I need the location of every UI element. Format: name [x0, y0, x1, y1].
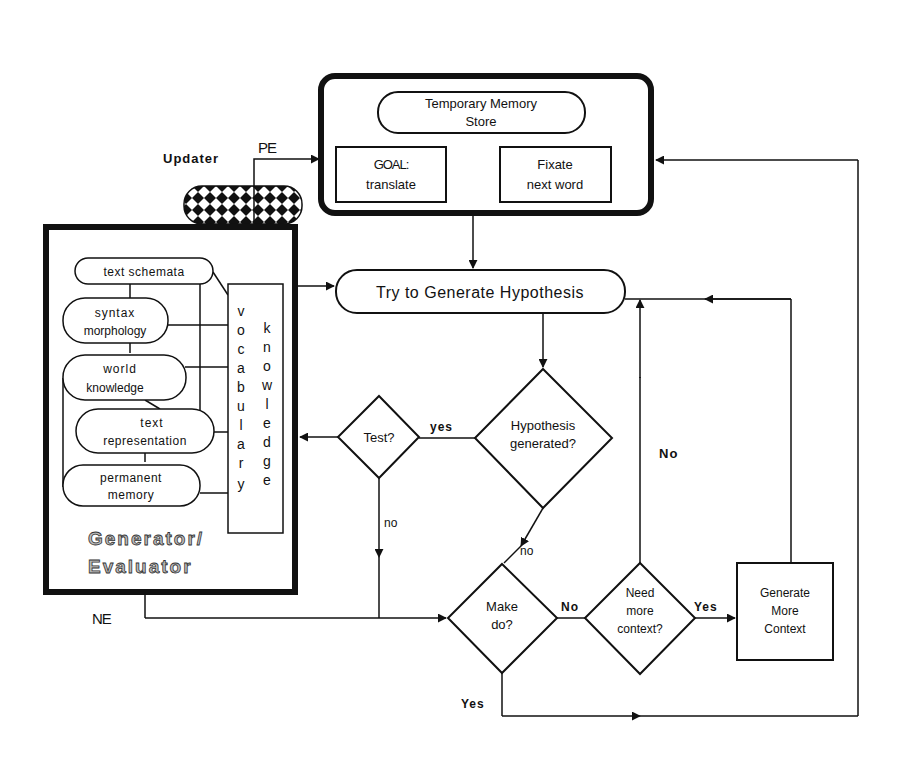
goal-label: GOAL:: [374, 157, 409, 172]
store-label: Store: [465, 114, 496, 129]
morphology-label: morphology: [84, 324, 147, 338]
hypothesis-no-label: no: [520, 544, 534, 558]
makedo-yes-label: Yes: [461, 697, 485, 711]
knowledge-label: knowledge: [86, 381, 144, 395]
hypothesis-label: Hypothesis: [511, 418, 576, 433]
need-no-label: No: [659, 446, 678, 461]
vocab-letter: o: [237, 322, 245, 338]
test-label: Test?: [363, 430, 394, 445]
temporary-memory-label: Temporary Memory: [425, 96, 537, 111]
evaluator-label: Evaluator: [88, 556, 193, 577]
generate-more-context-box: Generate More Context: [737, 563, 833, 660]
module-world-knowledge: world knowledge: [63, 355, 186, 400]
generate-label: Generate: [760, 586, 810, 600]
knowledge-letter: k: [264, 320, 272, 336]
vocab-letter: u: [237, 398, 245, 414]
need-yes-label: Yes: [694, 600, 718, 614]
do-label: do?: [491, 617, 513, 632]
updater-shape: [184, 186, 302, 224]
knowledge-letter: n: [263, 339, 271, 355]
vocab-letter: b: [237, 379, 245, 395]
knowledge-letter: e: [263, 415, 271, 431]
pe-label: PE: [258, 139, 277, 156]
text-label: text: [140, 416, 163, 430]
hypothesis-generated-diamond: Hypothesis generated?: [475, 369, 612, 508]
try-generate-hypothesis-node: Try to Generate Hypothesis: [336, 270, 625, 313]
syntax-label: syntax: [95, 306, 136, 320]
generated-label: generated?: [510, 436, 576, 451]
try-generate-label: Try to Generate Hypothesis: [376, 284, 584, 301]
module-text-representation: text representation: [76, 409, 214, 453]
vocab-letter: a: [237, 360, 245, 376]
next-word-label: next word: [527, 177, 583, 192]
memory-label: memory: [108, 488, 154, 502]
makedo-no-label: No: [561, 600, 579, 614]
flowchart-canvas: Task Representation Temporary Memory Sto…: [0, 0, 901, 758]
vocab-letter: l: [239, 417, 242, 433]
more-word-label: More: [771, 604, 799, 618]
ne-label: NE: [92, 610, 112, 627]
test-yes-label: yes: [430, 420, 453, 434]
knowledge-letter: l: [265, 396, 268, 412]
test-diamond: Test?: [338, 396, 419, 478]
generator-label: Generator/: [88, 528, 204, 549]
context-word-label: Context: [764, 622, 806, 636]
fixate-box: [500, 147, 611, 202]
permanent-label: permanent: [100, 471, 162, 485]
representation-label: representation: [103, 434, 187, 448]
goal-box: [336, 147, 446, 202]
vocab-letter: a: [237, 436, 245, 452]
fixate-label: Fixate: [537, 157, 572, 172]
vocab-letter: r: [239, 455, 244, 471]
task-representation-box: Temporary Memory Store GOAL: translate F…: [321, 76, 651, 213]
knowledge-letter: w: [261, 377, 273, 393]
knowledge-letter: g: [263, 453, 271, 469]
make-do-diamond: Make do?: [448, 564, 557, 673]
updater-label: Updater: [163, 151, 219, 166]
module-permanent-memory: permanent memory: [63, 465, 200, 506]
more-label: more: [626, 604, 654, 618]
need-label: Need: [626, 586, 655, 600]
module-syntax-morphology: syntax morphology: [63, 298, 168, 343]
vocab-letter: y: [238, 476, 245, 492]
vocab-letter: v: [238, 303, 245, 319]
need-more-context-diamond: Need more context?: [585, 563, 695, 674]
world-label: world: [102, 362, 137, 376]
knowledge-letter: o: [263, 358, 271, 374]
text-schemata-label: text schemata: [103, 265, 184, 279]
vocab-letter: c: [238, 341, 245, 357]
module-text-schemata: text schemata: [75, 258, 213, 284]
make-label: Make: [486, 599, 518, 614]
translate-label: translate: [366, 177, 416, 192]
test-no-label: no: [384, 516, 398, 530]
knowledge-letter: d: [263, 434, 271, 450]
knowledge-letter: e: [263, 472, 271, 488]
context-label: context?: [617, 622, 663, 636]
